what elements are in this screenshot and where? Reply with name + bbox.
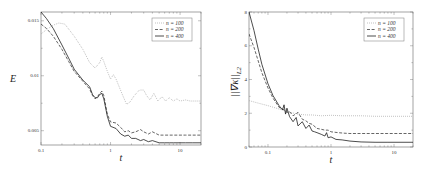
y-axis-label-main: ||∇κ||: [229, 74, 240, 97]
y-tick-label: 4: [245, 77, 248, 82]
x-axis-label: t: [120, 152, 123, 163]
y-axis-label: E: [9, 73, 16, 84]
y-tick-label: 0.01: [30, 73, 39, 78]
y-tick-label: 6: [245, 43, 248, 48]
series-line-dashed: [249, 34, 413, 134]
gradient-norm-chart: 0.111002468t||∇κ||L2n = 100n = 200n = 40…: [216, 0, 433, 169]
energy-chart: 0.11100.0050.010.015tEn = 100n = 200n = …: [0, 0, 216, 169]
legend-label: n = 400: [378, 33, 396, 39]
y-tick-label: 0.015: [28, 18, 40, 23]
x-tick-label: 1: [109, 148, 112, 153]
legend: n = 100n = 200n = 400: [152, 18, 192, 41]
y-axis-label: ||∇κ||L2: [229, 66, 243, 97]
x-axis-label: t: [330, 154, 333, 165]
legend-label: n = 200: [166, 26, 184, 32]
x-tick-label: 0.1: [265, 150, 272, 155]
y-tick-label: 2: [245, 111, 248, 116]
series-line-dotted: [249, 101, 413, 117]
legend: n = 100n = 200n = 400: [364, 18, 404, 41]
y-axis-label-subscript: L2: [235, 66, 243, 75]
legend-label: n = 100: [166, 20, 184, 26]
legend-label: n = 400: [166, 33, 184, 39]
legend-label: n = 100: [378, 20, 396, 26]
energy-chart-svg: 0.11100.0050.010.015tEn = 100n = 200n = …: [0, 0, 216, 169]
y-tick-label: 0: [245, 145, 248, 150]
x-tick-label: 10: [178, 148, 184, 153]
y-tick-label: 8: [245, 10, 248, 15]
y-tick-label: 0.005: [28, 128, 40, 133]
gradient-norm-chart-svg: 0.111002468t||∇κ||L2n = 100n = 200n = 40…: [216, 0, 433, 169]
legend-label: n = 200: [378, 26, 396, 32]
x-tick-label: 0.1: [38, 148, 45, 153]
x-tick-label: 10: [392, 150, 398, 155]
